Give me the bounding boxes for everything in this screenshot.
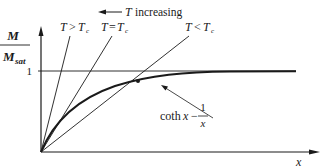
langevin-diagram: M M sat 1 x T increasing T > T c T = T c… bbox=[0, 0, 327, 168]
svg-text:T: T bbox=[60, 20, 68, 34]
svg-text:T: T bbox=[101, 20, 109, 34]
intersection-point bbox=[136, 79, 140, 83]
svg-text:coth: coth bbox=[160, 109, 181, 123]
x-axis-arrow-icon bbox=[309, 150, 320, 155]
svg-text:>: > bbox=[69, 20, 76, 34]
y-tick-label: 1 bbox=[27, 65, 33, 77]
increasing-text: increasing bbox=[135, 6, 183, 19]
svg-text:=: = bbox=[109, 20, 116, 34]
svg-text:x: x bbox=[200, 117, 206, 129]
svg-text:T: T bbox=[117, 20, 125, 34]
label-t-less-tc: T < T c bbox=[185, 20, 215, 35]
curve-pointer-arrow-icon bbox=[161, 85, 168, 91]
svg-text:T: T bbox=[203, 20, 211, 34]
line-t-less-tc bbox=[41, 36, 189, 152]
svg-text:1: 1 bbox=[200, 101, 206, 113]
line-t-equal-tc bbox=[41, 36, 112, 152]
arrow-left-icon bbox=[98, 10, 106, 15]
y-label-denominator-sub: sat bbox=[14, 56, 26, 66]
label-t-greater-tc: T > T c bbox=[60, 20, 90, 35]
svg-text:x: x bbox=[182, 109, 189, 123]
x-axis-label: x bbox=[295, 155, 302, 168]
svg-text:c: c bbox=[125, 27, 129, 35]
svg-text:−: − bbox=[191, 109, 198, 123]
label-t-equal-tc: T = T c bbox=[101, 20, 129, 35]
line-t-greater-tc bbox=[41, 36, 70, 152]
svg-text:c: c bbox=[211, 27, 215, 35]
y-label-denominator: M bbox=[2, 49, 15, 64]
svg-text:c: c bbox=[86, 27, 90, 35]
y-axis-arrow-icon bbox=[39, 26, 44, 36]
svg-text:T: T bbox=[185, 20, 193, 34]
increasing-symbol: T bbox=[125, 5, 133, 19]
curve-label: coth x − 1 x bbox=[160, 101, 208, 129]
svg-text:<: < bbox=[194, 20, 201, 34]
svg-text:T: T bbox=[78, 20, 86, 34]
y-label-numerator: M bbox=[6, 28, 19, 43]
